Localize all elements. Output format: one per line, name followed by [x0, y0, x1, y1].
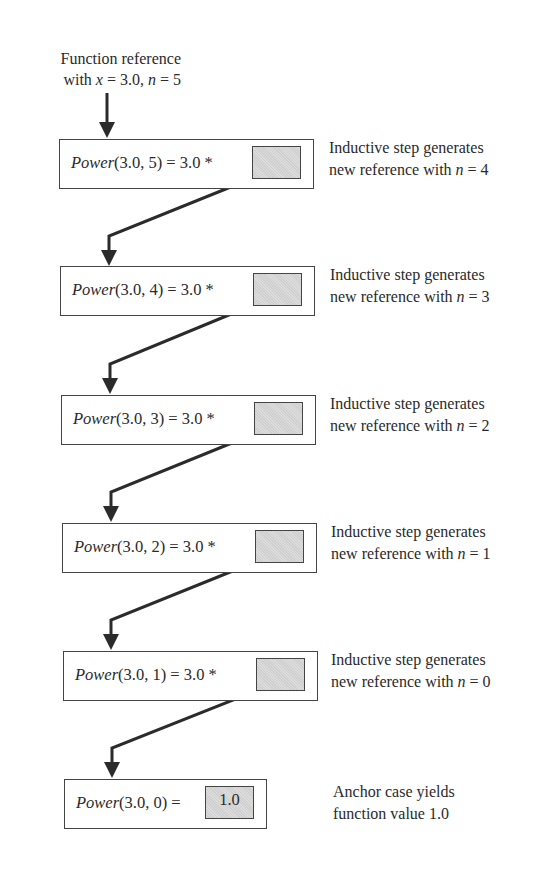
step-expression: Power(3.0, 4) = 3.0 *	[72, 280, 214, 300]
step-expression: Power(3.0, 1) = 3.0 *	[75, 665, 217, 685]
step-note: Inductive step generates new reference w…	[330, 393, 490, 437]
step-note: Inductive step generates new reference w…	[331, 521, 491, 565]
intro-line-1: Function reference	[19, 48, 181, 69]
arrowhead-icon	[99, 122, 115, 138]
pending-value-slot	[254, 402, 303, 435]
step-box-n5: Power(3.0, 5) = 3.0 *	[59, 139, 314, 189]
intro-line-2: with x = 3.0, n = 5	[19, 69, 181, 90]
anchor-note: Anchor case yields function value 1.0	[333, 781, 455, 825]
anchor-box-n0: Power(3.0, 0) = 1.0	[64, 779, 267, 829]
arrow-step-4-to-step-5	[111, 562, 255, 636]
arrowhead-icon	[101, 250, 117, 266]
anchor-value-slot: 1.0	[205, 786, 254, 819]
arrow-step-2-to-step-3	[110, 305, 253, 380]
step-box-n4: Power(3.0, 4) = 3.0 *	[60, 266, 315, 316]
pending-value-slot	[253, 273, 302, 306]
arrowhead-icon	[103, 634, 119, 650]
arrowhead-icon	[103, 506, 119, 522]
arrow-step-1-to-step-2	[109, 178, 253, 252]
anchor-value: 1.0	[206, 790, 253, 810]
step-box-n1: Power(3.0, 1) = 3.0 *	[63, 651, 318, 701]
step-note: Inductive step generates new reference w…	[329, 137, 489, 181]
step-expression: Power(3.0, 3) = 3.0 *	[73, 409, 215, 429]
arrowhead-icon	[104, 762, 120, 778]
step-expression: Power(3.0, 5) = 3.0 *	[71, 153, 213, 173]
arrow-step-3-to-step-4	[111, 434, 254, 508]
intro-label: Function reference with x = 3.0, n = 5	[19, 48, 181, 90]
pending-value-slot	[255, 530, 304, 563]
arrow-step-5-to-anchor	[112, 691, 256, 764]
step-note: Inductive step generates new reference w…	[331, 649, 491, 693]
step-expression: Power(3.0, 2) = 3.0 *	[74, 537, 216, 557]
step-box-n2: Power(3.0, 2) = 3.0 *	[62, 523, 317, 573]
anchor-expression: Power(3.0, 0) =	[76, 793, 181, 813]
pending-value-slot	[256, 658, 305, 691]
step-note: Inductive step generates new reference w…	[330, 264, 490, 308]
arrowhead-icon	[102, 378, 118, 394]
step-box-n3: Power(3.0, 3) = 3.0 *	[61, 395, 316, 445]
pending-value-slot	[252, 146, 301, 179]
